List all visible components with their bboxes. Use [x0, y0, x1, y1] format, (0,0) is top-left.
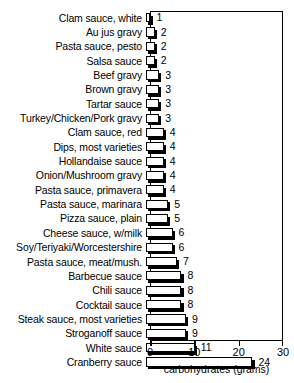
- bar: [146, 329, 186, 338]
- x-axis-tick-label: 0: [147, 346, 153, 358]
- bar-zone: 8: [146, 298, 294, 312]
- bar: [146, 42, 155, 51]
- x-axis-title: carbohydrates (grams): [150, 363, 283, 375]
- bar-category-label: Pizza sauce, plain: [0, 213, 146, 224]
- bar: [146, 128, 164, 137]
- bar-row: Stroganoff sauce9: [0, 327, 294, 341]
- bar: [146, 13, 150, 22]
- bar-body: [146, 142, 164, 151]
- bar-row: Beef gravy3: [0, 68, 294, 82]
- bar-zone: 4: [146, 183, 294, 197]
- bar-category-label: Stroganoff sauce: [0, 328, 146, 339]
- bar-chart: Clam sauce, white1Au jus gravy2Pasta sau…: [0, 0, 294, 383]
- bar-zone: 9: [146, 312, 294, 326]
- bar-value-label: 2: [161, 41, 167, 52]
- bar-row: Cheese sauce, w/milk6: [0, 226, 294, 240]
- bar-row: Au jus gravy2: [0, 25, 294, 39]
- x-axis-tick-label: 20: [233, 346, 245, 358]
- bar-category-label: Dips, most varieties: [0, 142, 146, 153]
- bar-value-label: 2: [161, 55, 167, 66]
- bar-row: Tartar sauce3: [0, 97, 294, 111]
- bar-value-label: 6: [179, 227, 185, 238]
- bar-body: [146, 200, 168, 209]
- bar-category-label: Soy/Teriyaki/Worcestershire: [0, 242, 146, 253]
- bar-zone: 7: [146, 255, 294, 269]
- bar-body: [146, 185, 164, 194]
- bar-row: Salsa sauce2: [0, 54, 294, 68]
- bar: [146, 314, 186, 323]
- bar: [146, 228, 173, 237]
- bar-category-label: Pasta sauce, primavera: [0, 185, 146, 196]
- bar-value-label: 1: [156, 12, 162, 23]
- bar-category-label: Tartar sauce: [0, 99, 146, 110]
- bar-zone: 3: [146, 97, 294, 111]
- bar-zone: 4: [146, 154, 294, 168]
- bar-value-label: 3: [165, 98, 171, 109]
- bar-row: Steak sauce, most varieties9: [0, 312, 294, 326]
- bar: [146, 142, 164, 151]
- bar-zone: 4: [146, 126, 294, 140]
- bar-body: [146, 171, 164, 180]
- bar-row: Dips, most varieties4: [0, 140, 294, 154]
- bar-category-label: Chili sauce: [0, 285, 146, 296]
- bar: [146, 85, 159, 94]
- bar-zone: 1: [146, 11, 294, 25]
- bar-body: [146, 27, 155, 36]
- bar: [146, 214, 168, 223]
- x-axis: 0102030: [150, 341, 283, 383]
- bar-value-label: 3: [165, 84, 171, 95]
- bar: [146, 200, 168, 209]
- bar-body: [146, 13, 150, 22]
- bar-zone: 3: [146, 83, 294, 97]
- bar-body: [146, 214, 168, 223]
- bar-row: Brown gravy3: [0, 83, 294, 97]
- bar-category-label: Beef gravy: [0, 70, 146, 81]
- bar-category-label: Hollandaise sauce: [0, 156, 146, 167]
- bar-category-label: Au jus gravy: [0, 27, 146, 38]
- bar-value-label: 8: [187, 299, 193, 310]
- bar-body: [146, 157, 164, 166]
- bar-value-label: 3: [165, 70, 171, 81]
- bar-zone: 3: [146, 111, 294, 125]
- bar-value-label: 8: [187, 285, 193, 296]
- bar-value-label: 5: [174, 199, 180, 210]
- bar-row: Clam sauce, white1: [0, 11, 294, 25]
- bar-value-label: 4: [170, 127, 176, 138]
- bar: [146, 114, 159, 123]
- bar-category-label: Clam sauce, white: [0, 13, 146, 24]
- bar: [146, 243, 173, 252]
- bar: [146, 300, 181, 309]
- bar-row: Pasta sauce, pesto2: [0, 40, 294, 54]
- bar-row: Clam sauce, red4: [0, 126, 294, 140]
- bar-value-label: 6: [179, 242, 185, 253]
- bar-zone: 3: [146, 68, 294, 82]
- bar-category-label: Cheese sauce, w/milk: [0, 228, 146, 239]
- x-axis-tick-label: 30: [277, 346, 289, 358]
- bar-body: [146, 300, 181, 309]
- bar-value-label: 3: [165, 113, 171, 124]
- bar-category-label: Pasta sauce, marinara: [0, 199, 146, 210]
- bar-body: [146, 85, 159, 94]
- bar-category-label: Cocktail sauce: [0, 300, 146, 311]
- bar-zone: 2: [146, 54, 294, 68]
- bar-value-label: 9: [192, 314, 198, 325]
- bar-row: Cocktail sauce8: [0, 298, 294, 312]
- bar-category-label: Onion/Mushroom gravy: [0, 170, 146, 181]
- bar-zone: 6: [146, 226, 294, 240]
- bar-value-label: 2: [161, 27, 167, 38]
- bar-body: [146, 286, 181, 295]
- bar-body: [146, 70, 159, 79]
- bar-value-label: 4: [170, 141, 176, 152]
- bar-category-label: Pasta sauce, pesto: [0, 41, 146, 52]
- bar: [146, 56, 155, 65]
- bar-body: [146, 99, 159, 108]
- bar-body: [146, 329, 186, 338]
- bar-row: Soy/Teriyaki/Worcestershire6: [0, 241, 294, 255]
- bar-zone: 5: [146, 212, 294, 226]
- bar-row: Turkey/Chicken/Pork gravy3: [0, 111, 294, 125]
- bar: [146, 70, 159, 79]
- bar-body: [146, 228, 173, 237]
- bar: [146, 171, 164, 180]
- bar-body: [146, 243, 173, 252]
- bar-value-label: 4: [170, 156, 176, 167]
